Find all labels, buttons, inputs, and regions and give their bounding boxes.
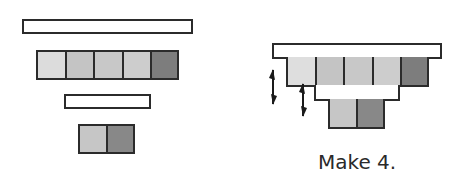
block-light	[38, 52, 67, 78]
block-medium	[80, 126, 108, 152]
block-medium	[67, 52, 96, 78]
five-block-row	[36, 50, 179, 80]
block-dark	[358, 99, 383, 127]
block-medium	[374, 57, 403, 85]
double-arrow-icon	[268, 68, 278, 106]
double-arrow-icon	[298, 82, 308, 118]
block-medium	[330, 99, 358, 127]
block-dark	[152, 52, 177, 78]
block-medium	[95, 52, 124, 78]
two-block-row	[328, 99, 385, 129]
two-block-row	[78, 124, 135, 154]
caption: Make 4.	[318, 150, 396, 174]
block-dark	[108, 126, 133, 152]
block-dark	[402, 57, 427, 85]
block-light	[288, 57, 317, 85]
block-medium	[317, 57, 346, 85]
block-medium	[345, 57, 374, 85]
block-medium	[124, 52, 153, 78]
short-rod-bar	[64, 94, 151, 109]
long-rod-bar	[22, 19, 193, 34]
